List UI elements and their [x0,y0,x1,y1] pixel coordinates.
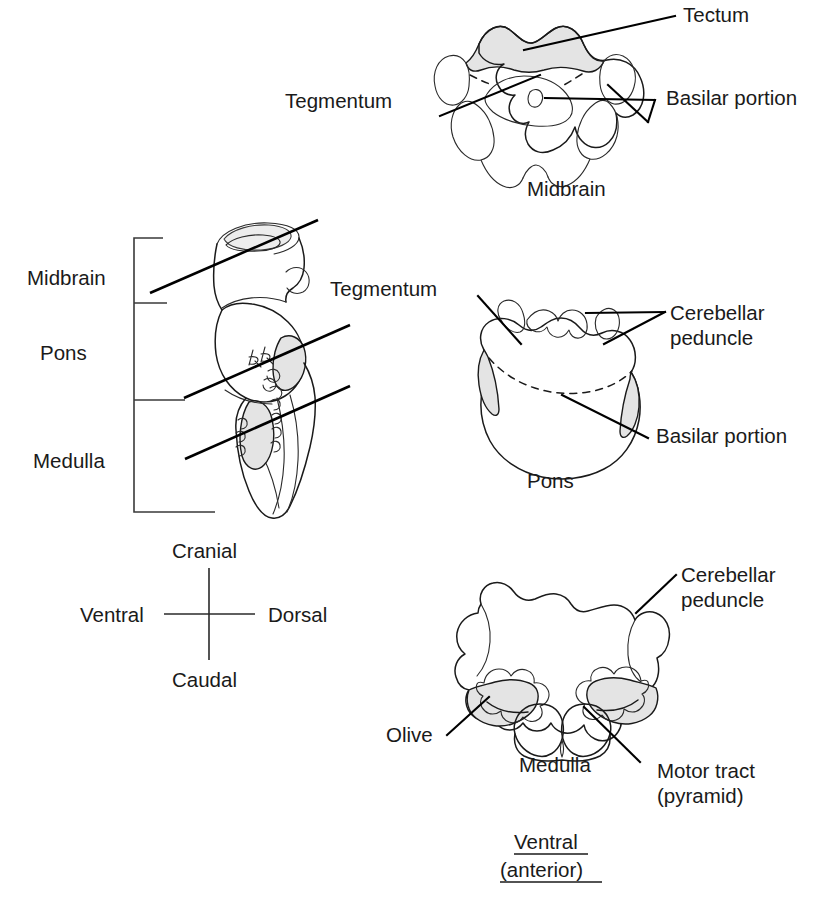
sagittal-brainstem-group: Midbrain Pons Medulla Tegmentum [27,220,437,518]
label-sagittal-pons: Pons [40,341,87,364]
label-olive: Olive [386,723,433,746]
midbrain-left-crus [451,101,494,160]
label-basilar-portion-midbrain: Basilar portion [666,86,797,109]
caption-medulla-section: Medulla [519,753,591,776]
medulla-peduncle-right-contour [628,620,641,682]
pons-outline [481,318,641,479]
pons-superior-lobe-left [498,300,525,332]
pons-peduncle-right-shading [620,372,639,437]
midbrain-left-peduncle [434,55,469,105]
orientation-compass-group: Cranial Caudal Ventral Dorsal [80,539,327,691]
leader-cerebellar-peduncle-pons-left [478,296,521,344]
label-tegmentum-midbrain: Tegmentum [285,89,392,112]
label-cerebellar-peduncle-medulla-line1: Cerebellar [681,563,776,586]
leader-cerebellar-peduncle-pons-top [586,312,665,313]
sagittal-peduncle-shading [273,336,306,391]
tectum-tegmentum-boundary-left [470,75,490,84]
section-plane-pons [184,325,350,398]
sagittal-pons-upper-edge [222,297,286,308]
label-tectum: Tectum [683,3,749,26]
label-motor-tract-line2: (pyramid) [657,784,744,807]
leader-basilar-midbrain-join [648,100,655,122]
level-bracket [134,238,215,512]
label-sagittal-medulla: Medulla [33,449,105,472]
label-view-anterior: (anterior) [500,858,583,881]
midbrain-left-inner [481,160,523,188]
tectum-tegmentum-boundary-right [562,74,582,86]
label-ventral-compass: Ventral [80,603,144,626]
label-view-ventral: Ventral [514,830,578,853]
midbrain-right-peduncle [600,55,636,104]
label-cerebellar-peduncle-pons-line1: Cerebellar [670,301,765,324]
midbrain-section-group: Tectum Tegmentum Basilar portion Midbrai… [285,3,797,200]
leader-cerebellar-peduncle-pons-right [604,312,665,344]
label-dorsal-compass: Dorsal [268,603,327,626]
medulla-olive-left-shading [467,680,538,726]
caption-pons-section: Pons [527,469,574,492]
pons-section-group: Cerebellar peduncle Basilar portion Pons [478,296,787,492]
label-cerebellar-peduncle-pons-line2: peduncle [670,326,753,349]
sagittal-midbrain-bump [286,268,309,294]
figure-canvas: Tectum Tegmentum Basilar portion Midbrai… [0,0,825,910]
caption-midbrain-section: Midbrain [527,177,606,200]
cerebral-aqueduct [528,90,543,108]
leader-basilar-midbrain-upper [545,98,655,100]
label-sagittal-midbrain: Midbrain [27,266,106,289]
medulla-section-group: Cerebellar peduncle Olive Medulla Motor … [386,563,776,882]
brainstem-diagram: Tectum Tegmentum Basilar portion Midbrai… [0,0,825,910]
label-caudal: Caudal [172,668,237,691]
leader-tectum [524,16,675,50]
label-cerebellar-peduncle-medulla-line2: peduncle [681,588,764,611]
label-motor-tract-line1: Motor tract [657,759,755,782]
label-sagittal-tegmentum: Tegmentum [330,277,437,300]
leader-cerebellar-peduncle-medulla [636,575,676,613]
pons-tegmentum-boundary [489,358,632,393]
midbrain-right-crus [577,100,618,159]
label-cranial: Cranial [172,539,237,562]
pons-vermis-notch [527,310,587,338]
medulla-peduncle-left-contour [477,604,490,676]
medulla-olive-right-shading [587,678,658,724]
label-basilar-portion-pons: Basilar portion [656,424,787,447]
